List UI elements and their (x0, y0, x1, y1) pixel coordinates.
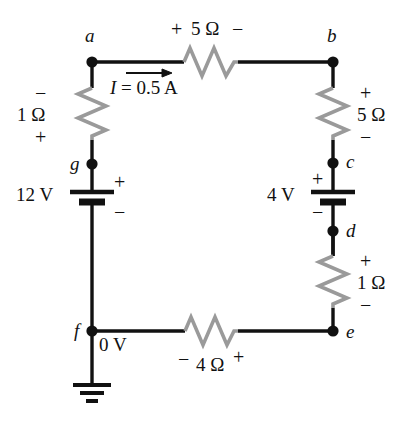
node-label-f: f (74, 321, 79, 340)
5-ohm-right-resistor-symbol (319, 88, 347, 140)
5-ohm-top-resistor-plus-sign: + (171, 19, 182, 39)
node-dot-a (86, 56, 97, 67)
node-dot-b (327, 56, 338, 67)
1-ohm-right-resistor-plus-sign: + (360, 251, 371, 271)
12-volt-battery-plus-sign: + (114, 172, 125, 192)
node-dot-e (327, 325, 338, 336)
node-dot-d (327, 225, 338, 236)
node-label-g: g (70, 154, 80, 173)
5-ohm-right-resistor-plus-sign: + (360, 83, 371, 103)
current-arrow (126, 69, 172, 77)
1-ohm-left-resistor-plus-sign: + (35, 127, 46, 147)
node-dot-group (86, 56, 338, 336)
current-arrow-head (162, 69, 172, 77)
node-dot-c (327, 157, 338, 168)
5-ohm-right-resistor-value: 5 Ω (357, 105, 385, 124)
circuit-diagram: a b c d e f g + 5 Ω − − 1 Ω + + 5 Ω − + … (0, 0, 410, 422)
ground-reference-label: 0 V (99, 335, 127, 354)
12-volt-battery-value: 12 V (16, 185, 53, 204)
wire-group (92, 62, 333, 385)
4-volt-battery-plus-sign: + (312, 169, 323, 189)
12-volt-battery-minus-sign: − (114, 202, 125, 222)
node-label-e: e (346, 322, 354, 341)
1-ohm-left-resistor-minus-sign: − (35, 83, 46, 103)
node-label-c: c (346, 152, 354, 171)
4-ohm-bottom-resistor-value: 4 Ω (196, 355, 224, 374)
1-ohm-left-resistor-symbol (78, 88, 106, 140)
4-ohm-bottom-resistor-minus-sign: − (178, 349, 189, 369)
4-ohm-bottom-resistor-plus-sign: + (233, 347, 244, 367)
5-ohm-top-resistor-value: 5 Ω (191, 19, 219, 38)
1-ohm-right-resistor-minus-sign: − (360, 295, 371, 315)
node-label-a: a (85, 26, 95, 45)
5-ohm-right-resistor-minus-sign: − (360, 127, 371, 147)
4-volt-battery-value: 4 V (267, 185, 295, 204)
5-ohm-top-resistor-minus-sign: − (232, 19, 243, 39)
ground-symbol (73, 385, 111, 401)
4-volt-battery-minus-sign: − (312, 202, 323, 222)
node-dot-g (86, 158, 97, 169)
1-ohm-right-resistor-value: 1 Ω (357, 273, 385, 292)
1-ohm-right-resistor-symbol (319, 256, 347, 308)
node-label-d: d (346, 221, 356, 240)
4-ohm-bottom-resistor-symbol (185, 317, 238, 345)
1-ohm-left-resistor-value: 1 Ω (17, 105, 45, 124)
current-label: I = 0.5 A (110, 78, 178, 97)
node-label-b: b (327, 26, 337, 45)
node-dot-f (86, 325, 97, 336)
5-ohm-top-resistor-symbol (184, 48, 238, 76)
